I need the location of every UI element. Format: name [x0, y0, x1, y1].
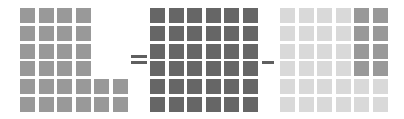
grid-cell-highlighted	[354, 8, 369, 23]
grid-cell	[280, 26, 295, 41]
grid-cell	[243, 79, 258, 94]
minus-operator-icon: −	[262, 61, 274, 64]
grid-cell	[224, 97, 239, 112]
grid-cell	[299, 8, 314, 23]
grid-cell	[224, 26, 239, 41]
grid-cell	[150, 79, 165, 94]
grid-cell	[94, 97, 109, 112]
grid-cell	[243, 44, 258, 59]
grid-cell	[76, 26, 91, 41]
grid-cell	[299, 61, 314, 76]
grid-cell	[57, 79, 72, 94]
grid-cell	[280, 8, 295, 23]
grid-cell	[336, 26, 351, 41]
grid-cell	[243, 8, 258, 23]
grid-cell	[76, 8, 91, 23]
grid-cell	[280, 79, 295, 94]
grid-cell	[169, 61, 184, 76]
grid-cell-empty	[94, 8, 109, 23]
grid-cell	[317, 8, 332, 23]
grid-cell	[94, 79, 109, 94]
grid-cell	[150, 8, 165, 23]
grid-cell	[39, 79, 54, 94]
grid-cell	[20, 26, 35, 41]
grid-cell	[299, 79, 314, 94]
grid-cell	[206, 26, 221, 41]
grid-cell	[169, 44, 184, 59]
grid-cell	[57, 44, 72, 59]
grid-cell-highlighted	[373, 26, 388, 41]
grid-cell	[224, 61, 239, 76]
grid-cell	[354, 79, 369, 94]
grid-cell	[20, 8, 35, 23]
grid-equation-diagram: =	[0, 0, 404, 119]
equals-operator-symbol: =	[131, 53, 132, 54]
grid-cell	[280, 44, 295, 59]
grid-cell	[113, 97, 128, 112]
grid-cell	[243, 26, 258, 41]
grid-cell	[336, 79, 351, 94]
grid-cell-highlighted	[354, 26, 369, 41]
grid-cell	[76, 44, 91, 59]
grid-cell	[206, 8, 221, 23]
grid-cell	[169, 8, 184, 23]
grid-cell	[20, 97, 35, 112]
grid-cell	[317, 97, 332, 112]
equals-bar-bottom	[131, 61, 147, 64]
grid-cell	[76, 79, 91, 94]
grid-cell	[169, 79, 184, 94]
grid-cell	[150, 61, 165, 76]
grid-cell-highlighted	[373, 44, 388, 59]
grid-cell	[39, 97, 54, 112]
grid-cell	[20, 79, 35, 94]
grid-cell	[336, 97, 351, 112]
grid-cell	[373, 79, 388, 94]
grid-cell	[20, 61, 35, 76]
grid-cell	[187, 44, 202, 59]
grid-cell	[206, 79, 221, 94]
grid-cell	[243, 97, 258, 112]
equals-bar-top	[131, 55, 147, 58]
grid-cell-highlighted	[354, 44, 369, 59]
grid-cell	[39, 26, 54, 41]
grid-cell-highlighted	[354, 61, 369, 76]
grid-cell-empty	[113, 26, 128, 41]
grid-cell	[57, 97, 72, 112]
grid-highlighted-corner	[280, 8, 388, 112]
grid-cell	[299, 97, 314, 112]
grid-cell	[373, 97, 388, 112]
grid-cell	[243, 61, 258, 76]
grid-cell	[299, 26, 314, 41]
grid-cell-empty	[94, 61, 109, 76]
grid-cell	[150, 97, 165, 112]
grid-cell	[57, 8, 72, 23]
grid-cell	[76, 61, 91, 76]
grid-cell-empty	[94, 44, 109, 59]
grid-cell	[280, 97, 295, 112]
equals-operator-icon: =	[131, 53, 147, 66]
grid-cell	[187, 61, 202, 76]
grid-cell	[224, 79, 239, 94]
grid-cell-empty	[113, 8, 128, 23]
grid-cell	[113, 79, 128, 94]
grid-cell	[150, 26, 165, 41]
grid-cell	[169, 26, 184, 41]
grid-cell	[299, 44, 314, 59]
grid-cell	[187, 79, 202, 94]
grid-cell	[20, 44, 35, 59]
grid-cell	[224, 44, 239, 59]
grid-cell	[280, 61, 295, 76]
grid-cell	[187, 97, 202, 112]
grid-cell	[169, 97, 184, 112]
grid-cell-empty	[113, 44, 128, 59]
grid-cell-highlighted	[373, 8, 388, 23]
grid-l-shape	[20, 8, 128, 112]
grid-full	[150, 8, 258, 112]
grid-cell	[57, 26, 72, 41]
grid-cell	[336, 61, 351, 76]
grid-cell	[317, 26, 332, 41]
grid-cell	[57, 61, 72, 76]
grid-cell	[76, 97, 91, 112]
grid-cell	[354, 97, 369, 112]
grid-cell	[206, 97, 221, 112]
